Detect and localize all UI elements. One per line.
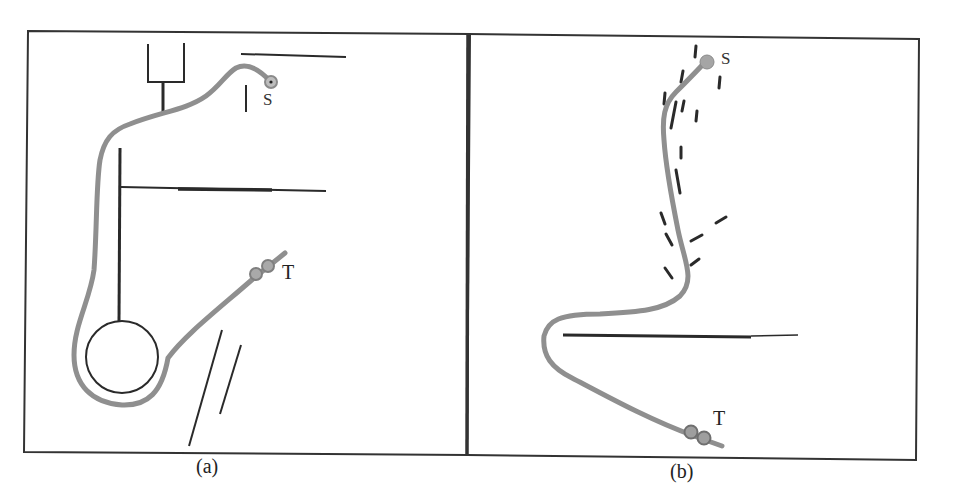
panel-a-path <box>74 66 285 405</box>
panel-b-target-label: T <box>713 408 725 428</box>
panel-a-obstacles <box>86 43 346 446</box>
panel-b-start-marker <box>700 55 714 69</box>
figure-canvas <box>0 0 956 502</box>
panel-b-obstacles <box>661 46 726 278</box>
panel-b-start-label: S <box>721 50 730 67</box>
panel-b-caption: (b) <box>670 461 693 481</box>
panel-b-wall <box>563 335 798 337</box>
panel-a-caption: (a) <box>196 456 218 476</box>
panel-a-target-label: T <box>282 262 294 282</box>
panel-a-start-label: S <box>263 91 272 108</box>
panel-b-frame <box>467 34 919 460</box>
panel-b-target-marker <box>685 426 711 445</box>
